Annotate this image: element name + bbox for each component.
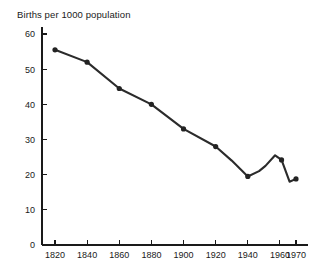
- data-point-marker: [213, 144, 218, 149]
- y-tick-label: 40: [25, 100, 35, 110]
- y-tick-label: 0: [30, 240, 35, 250]
- x-tick-label: 1820: [45, 250, 65, 260]
- y-tick-label: 50: [25, 65, 35, 75]
- x-tick-label: 1840: [77, 250, 97, 260]
- line-chart-plot: 0102030405060 18201840186018801900192019…: [0, 0, 316, 274]
- data-point-marker: [245, 174, 250, 179]
- chart-container: Births per 1000 population 0102030405060…: [0, 0, 316, 274]
- x-tick-label: 1900: [174, 250, 194, 260]
- y-tick-label: 10: [25, 205, 35, 215]
- data-point-markers: [52, 47, 298, 181]
- data-point-marker: [149, 102, 154, 107]
- x-tick-label: 1970: [286, 250, 306, 260]
- x-tick-label: 1920: [206, 250, 226, 260]
- y-axis-tick-marks: [42, 34, 47, 245]
- data-point-marker: [181, 126, 186, 131]
- data-point-marker: [293, 176, 298, 181]
- data-point-marker: [117, 86, 122, 91]
- data-point-marker: [52, 47, 57, 52]
- x-tick-label: 1940: [238, 250, 258, 260]
- y-tick-label: 20: [25, 170, 35, 180]
- y-tick-label: 60: [25, 29, 35, 39]
- y-tick-label: 30: [25, 135, 35, 145]
- data-point-marker: [85, 60, 90, 65]
- x-axis-tick-labels: 182018401860188019001920194019601970: [45, 250, 306, 260]
- x-tick-label: 1880: [141, 250, 161, 260]
- x-axis-tick-marks: [55, 240, 296, 245]
- data-point-marker: [279, 157, 284, 162]
- y-axis-tick-labels: 0102030405060: [25, 29, 35, 250]
- x-tick-label: 1860: [109, 250, 129, 260]
- data-series-line: [55, 50, 296, 182]
